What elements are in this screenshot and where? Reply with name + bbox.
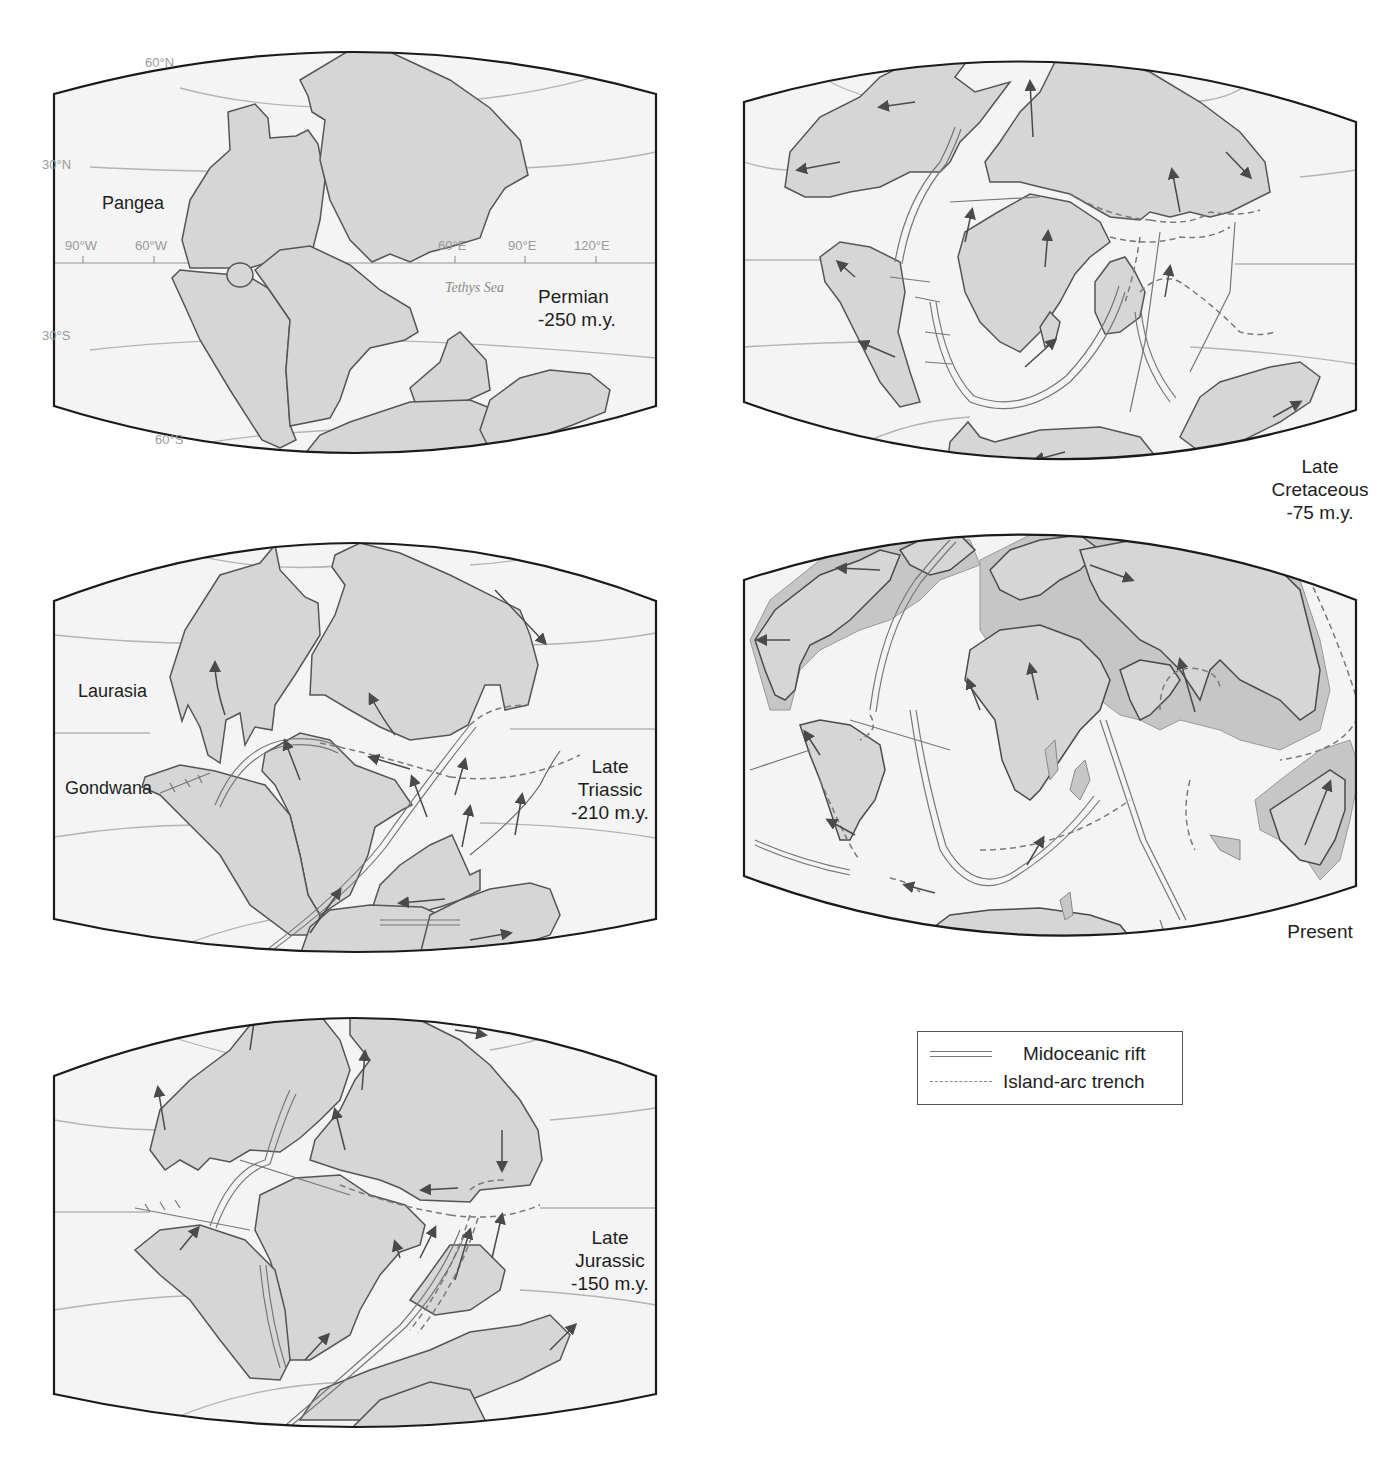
period-label-line1: Late <box>570 755 650 778</box>
double-line-icon <box>930 1051 992 1057</box>
map-panel-present: Present <box>740 520 1370 950</box>
lat-label-30s: 30°S <box>42 328 70 343</box>
late-cretaceous-map <box>740 42 1370 482</box>
legend: Midoceanic rift Island-arc trench <box>917 1031 1183 1105</box>
present-map <box>740 520 1370 950</box>
period-label-line2: Triassic <box>570 778 650 801</box>
age-label: -250 m.y. <box>538 308 616 331</box>
late-jurassic-map <box>50 990 660 1430</box>
supercontinent-label: Pangea <box>102 192 164 215</box>
lat-label-30n: 30°N <box>42 157 71 172</box>
legend-item-midoceanic-rift: Midoceanic rift <box>918 1042 1182 1066</box>
lon-label-90w: 90°W <box>65 238 97 253</box>
map-panel-late-jurassic: Late Jurassic -150 m.y. <box>50 990 660 1430</box>
period-label-line2: Jurassic <box>570 1249 650 1272</box>
age-label: -210 m.y. <box>570 801 650 824</box>
legend-item-island-arc-trench: Island-arc trench <box>918 1070 1182 1094</box>
period-label: Permian <box>538 285 609 308</box>
late-triassic-map <box>50 515 660 955</box>
permian-map <box>50 40 660 480</box>
map-panel-late-triassic: Laurasia Gondwana Late Triassic -210 m.y… <box>50 515 660 955</box>
lat-label-60n: 60°N <box>145 55 174 70</box>
dashed-line-icon <box>930 1081 992 1082</box>
legend-label: Island-arc trench <box>1003 1070 1145 1094</box>
map-panel-late-cretaceous: Late Cretaceous -75 m.y. <box>740 42 1370 482</box>
lon-label-90e: 90°E <box>508 238 536 253</box>
laurasia-label: Laurasia <box>78 680 147 703</box>
period-label-line1: Late <box>570 1226 650 1249</box>
lon-label-60w: 60°W <box>135 238 167 253</box>
lat-label-60s: 60°S <box>155 432 183 447</box>
lon-label-120e: 120°E <box>574 238 610 253</box>
period-label-line1: Late <box>1260 455 1380 478</box>
period-label: Present <box>1280 920 1360 943</box>
gondwana-label: Gondwana <box>65 777 152 800</box>
sea-label: Tethys Sea <box>445 280 504 296</box>
map-panel-permian: 60°N 30°N 30°S 60°S 90°W 60°W 60°E 90°E … <box>50 40 660 480</box>
age-label: -150 m.y. <box>570 1272 650 1295</box>
lon-label-60e: 60°E <box>438 238 466 253</box>
legend-label: Midoceanic rift <box>1023 1042 1146 1066</box>
period-label-line2: Cretaceous <box>1260 478 1380 501</box>
